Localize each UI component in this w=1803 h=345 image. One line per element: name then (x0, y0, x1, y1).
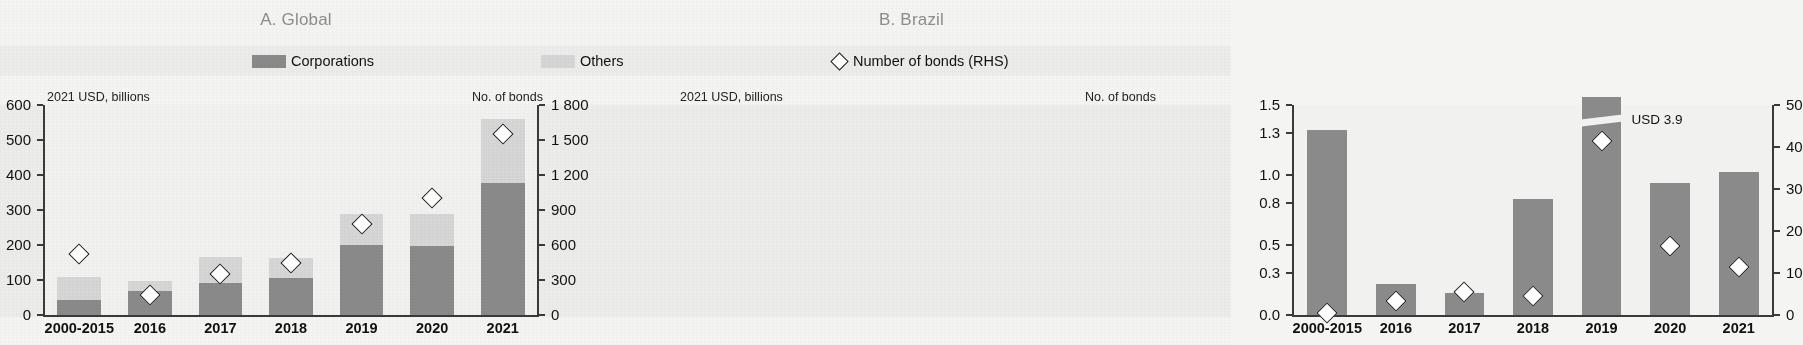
bar-2020 (410, 214, 454, 315)
brazil-right-tick (1774, 272, 1780, 274)
bar-2021 (1719, 172, 1759, 315)
brazil-left-tick-label: 0.8 (1190, 194, 1280, 211)
global-left-axis-unit: 2021 USD, billions (47, 90, 150, 104)
global-right-tick-label: 1 200 (551, 166, 589, 183)
brazil-right-tick (1774, 188, 1780, 190)
global-right-tick (539, 314, 545, 316)
global-left-axis-line (43, 105, 45, 315)
x-axis-label-2016: 2016 (1380, 320, 1412, 336)
brazil-right-tick-label: 10 (1786, 264, 1803, 281)
x-axis-label-2018: 2018 (275, 320, 307, 336)
global-right-tick-label: 0 (551, 306, 559, 323)
global-right-tick (539, 244, 545, 246)
global-right-tick (539, 279, 545, 281)
global-left-tick-label: 500 (0, 131, 31, 148)
brazil-left-tick (1286, 174, 1292, 176)
brazil-left-axis-line (1292, 105, 1294, 315)
brazil-left-tick-label: 1.0 (1190, 166, 1280, 183)
brazil-right-tick-label: 20 (1786, 222, 1803, 239)
legend-label-others: Others (580, 53, 624, 69)
brazil-right-axis-line (1772, 105, 1774, 315)
diamond-marker-icon (69, 243, 90, 264)
bar-2000-2015 (57, 277, 101, 315)
global-left-tick (37, 174, 43, 176)
brazil-left-tick (1286, 314, 1292, 316)
brazil-right-tick (1774, 314, 1780, 316)
brazil-left-tick (1286, 132, 1292, 134)
legend-item-corporations: Corporations (252, 53, 374, 69)
global-left-tick-label: 200 (0, 236, 31, 253)
global-left-tick (37, 209, 43, 211)
bar-2021 (481, 119, 525, 315)
brazil-right-tick (1774, 230, 1780, 232)
brazil-right-tick-label: 50 (1786, 96, 1803, 113)
brazil-left-tick (1286, 244, 1292, 246)
legend-label-number-of-bonds: Number of bonds (RHS) (853, 53, 1009, 69)
global-left-tick-label: 300 (0, 201, 31, 218)
diamond-outline-icon (830, 52, 848, 70)
axis-break-annotation: USD 3.9 (1631, 112, 1682, 127)
x-axis-label-2016: 2016 (134, 320, 166, 336)
global-right-tick (539, 139, 545, 141)
global-left-tick (37, 314, 43, 316)
global-left-tick (37, 279, 43, 281)
bar-2000-2015 (1307, 130, 1347, 315)
global-x-axis-line (43, 315, 539, 317)
brazil-x-axis-line (1292, 315, 1774, 317)
global-right-tick (539, 104, 545, 106)
diamond-marker-icon (422, 188, 443, 209)
brazil-left-tick-label: 1.5 (1190, 96, 1280, 113)
legend-swatch-corporations-icon (252, 55, 286, 68)
bar-segment-corporations (481, 183, 525, 315)
brazil-right-tick-label: 30 (1786, 180, 1803, 197)
brazil-right-tick (1774, 104, 1780, 106)
brazil-left-tick-label: 1.3 (1190, 124, 1280, 141)
brazil-right-tick (1774, 146, 1780, 148)
plot-area-brazil: 0.00.30.50.81.01.31.501020304050 (1293, 105, 1773, 315)
global-left-tick (37, 244, 43, 246)
global-left-tick (37, 139, 43, 141)
bar-segment-others (410, 214, 454, 247)
bar-segment-corporations (199, 283, 243, 315)
brazil-left-axis-unit: 2021 USD, billions (680, 90, 783, 104)
global-left-tick-label: 0 (0, 306, 31, 323)
global-right-tick-label: 900 (551, 201, 576, 218)
global-left-tick-label: 600 (0, 96, 31, 113)
x-axis-label-2019: 2019 (345, 320, 377, 336)
brazil-right-tick-label: 40 (1786, 138, 1803, 155)
x-axis-label-2018: 2018 (1517, 320, 1549, 336)
global-right-tick-label: 300 (551, 271, 576, 288)
bar-segment-corporations (269, 278, 313, 315)
brazil-right-axis-unit: No. of bonds (1085, 90, 1156, 104)
brazil-left-tick-label: 0.0 (1190, 306, 1280, 323)
global-left-tick-label: 100 (0, 271, 31, 288)
x-axis-label-2000-2015: 2000-2015 (1293, 320, 1362, 336)
legend-label-corporations: Corporations (291, 53, 374, 69)
global-left-tick (37, 104, 43, 106)
x-axis-label-2021: 2021 (1723, 320, 1755, 336)
x-axis-label-2021: 2021 (487, 320, 519, 336)
brazil-right-tick-label: 0 (1786, 306, 1794, 323)
global-right-tick-label: 1 800 (551, 96, 589, 113)
legend-item-others: Others (541, 53, 624, 69)
bar-segment-corporations (57, 300, 101, 315)
brazil-left-tick (1286, 202, 1292, 204)
global-left-tick-label: 400 (0, 166, 31, 183)
brazil-left-tick-label: 0.5 (1190, 236, 1280, 253)
brazil-left-tick (1286, 272, 1292, 274)
panel-title-brazil: B. Brazil (606, 10, 1217, 30)
global-right-axis-unit: No. of bonds (472, 90, 543, 104)
x-axis-label-2000-2015: 2000-2015 (45, 320, 114, 336)
bar-segment-corporations (340, 245, 384, 315)
x-axis-label-2017: 2017 (1448, 320, 1480, 336)
bar-segment-others (57, 277, 101, 300)
global-right-tick-label: 1 500 (551, 131, 589, 148)
x-axis-label-2020: 2020 (1654, 320, 1686, 336)
global-right-tick-label: 600 (551, 236, 576, 253)
brazil-left-tick (1286, 104, 1292, 106)
legend-swatch-others-icon (541, 55, 575, 68)
x-axis-label-2019: 2019 (1585, 320, 1617, 336)
legend-item-number-of-bonds: Number of bonds (RHS) (833, 53, 1009, 69)
x-axis-label-2017: 2017 (204, 320, 236, 336)
